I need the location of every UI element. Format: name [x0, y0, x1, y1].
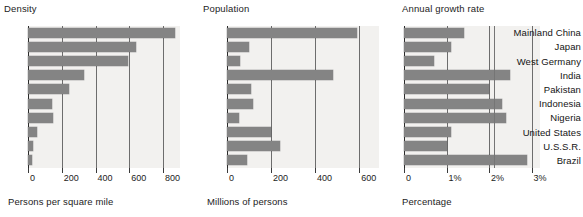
- category-label: West Germany: [517, 57, 581, 67]
- tick-label: 0: [30, 173, 35, 183]
- bar: [404, 56, 434, 66]
- tick-label: 0: [406, 173, 411, 183]
- bar: [28, 70, 84, 80]
- chart-panel-population: Population 0200400600 Millions of person…: [203, 0, 383, 217]
- bar: [28, 113, 53, 123]
- bar: [227, 141, 280, 151]
- bar: [227, 42, 249, 52]
- tick-mark: [315, 168, 316, 173]
- bar: [227, 28, 357, 38]
- bar: [28, 84, 69, 94]
- bar: [28, 56, 128, 66]
- bar: [404, 28, 464, 38]
- bar: [404, 84, 489, 94]
- tick-label: 600: [361, 173, 376, 183]
- tick-label: 0: [229, 173, 234, 183]
- tick-mark: [532, 168, 533, 173]
- bar: [28, 127, 37, 137]
- tick-mark: [489, 168, 490, 173]
- x-axis-label-population: Millions of persons: [207, 196, 288, 207]
- bar: [404, 127, 451, 137]
- bar: [28, 28, 175, 38]
- plot-area-density: [28, 26, 180, 168]
- bar: [227, 56, 240, 66]
- tick-label: 400: [317, 173, 332, 183]
- tick-label: 200: [273, 173, 288, 183]
- tick-mark: [96, 168, 97, 173]
- bar: [227, 155, 247, 165]
- bar: [227, 99, 253, 109]
- tick-mark: [404, 168, 405, 173]
- tick-mark: [163, 168, 164, 173]
- tick-label: 3%: [534, 173, 547, 183]
- category-label: Mainland China: [514, 28, 581, 38]
- category-label: Pakistan: [544, 85, 581, 95]
- bar: [227, 84, 251, 94]
- bar: [227, 70, 333, 80]
- bar: [227, 113, 239, 123]
- tick-label: 800: [165, 173, 180, 183]
- bar: [28, 42, 136, 52]
- tick-label: 2%: [491, 173, 504, 183]
- chart-title-population: Population: [203, 3, 249, 14]
- tick-mark: [271, 168, 272, 173]
- chart-panel-density: Density 0200400600800 Persons per square…: [4, 0, 184, 217]
- plot-area-population: [227, 26, 379, 168]
- category-label: U.S.S.R.: [543, 142, 581, 152]
- tick-label: 600: [131, 173, 146, 183]
- x-axis-label-density: Persons per square mile: [8, 196, 113, 207]
- bar: [28, 141, 33, 151]
- category-axis-rule: [494, 26, 495, 168]
- chart-title-growth-rate: Annual growth rate: [402, 3, 484, 14]
- tick-label: 1%: [449, 173, 462, 183]
- gridline-600: [359, 26, 360, 168]
- bar: [28, 155, 32, 165]
- tick-mark: [359, 168, 360, 173]
- category-label: India: [560, 71, 581, 81]
- category-label: United States: [523, 128, 581, 138]
- gridline-800: [163, 26, 164, 168]
- tick-label: 200: [64, 173, 79, 183]
- chart-title-density: Density: [4, 3, 37, 14]
- bar: [28, 99, 52, 109]
- gridline-400: [315, 26, 316, 168]
- x-axis-ticks-density: 0200400600800: [28, 168, 180, 190]
- x-axis-label-growth-rate: Percentage: [402, 196, 452, 207]
- tick-mark: [28, 168, 29, 173]
- category-label: Indonesia: [539, 99, 581, 109]
- tick-label: 400: [98, 173, 113, 183]
- tick-mark: [62, 168, 63, 173]
- bar: [404, 42, 451, 52]
- category-label: Nigeria: [550, 113, 581, 123]
- x-axis-ticks-population: 0200400600: [227, 168, 379, 190]
- tick-mark: [227, 168, 228, 173]
- bar: [227, 127, 271, 137]
- tick-mark: [447, 168, 448, 173]
- category-label: Japan: [555, 42, 581, 52]
- category-label: Brazil: [557, 156, 581, 166]
- category-axis-countries: Mainland ChinaJapanWest GermanyIndiaPaki…: [489, 26, 583, 168]
- population-comparison-figure: Density 0200400600800 Persons per square…: [0, 0, 583, 217]
- tick-mark: [129, 168, 130, 173]
- bar: [404, 141, 447, 151]
- x-axis-ticks-growth-rate: 01%2%3%: [404, 168, 540, 190]
- bar: [404, 99, 502, 109]
